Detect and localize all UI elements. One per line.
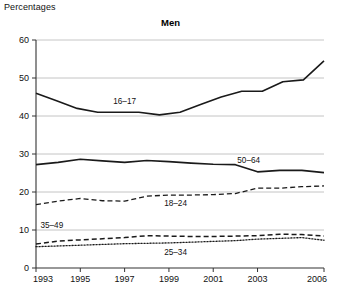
series-label-18-24: 18–24: [164, 199, 187, 208]
x-tick-label: 1995: [70, 274, 90, 284]
y-tick-label: 10: [19, 225, 29, 235]
chart-container: Percentages Men 0102030405060 1993199519…: [0, 0, 341, 292]
line-chart-plot: 0102030405060 19931995199719992001200320…: [0, 0, 341, 292]
series-line-16-17: [36, 61, 324, 115]
y-tick-label: 20: [19, 187, 29, 197]
x-tick-label: 1999: [159, 274, 179, 284]
x-tick-labels-group: 1993199519971999200120032006: [33, 274, 327, 284]
y-tick-label: 30: [19, 149, 29, 159]
x-tick-label: 1993: [33, 274, 53, 284]
x-tick-label: 2006: [307, 274, 327, 284]
y-tick-label: 0: [24, 263, 29, 273]
series-line-50-64: [36, 159, 324, 172]
y-tick-label: 40: [19, 111, 29, 121]
series-label-16-17: 16–17: [113, 97, 136, 106]
series-label-50-64: 50–64: [237, 156, 260, 165]
y-tick-label: 50: [19, 73, 29, 83]
x-tick-marks-group: [36, 268, 324, 272]
series-labels-group: 16–1718–2425–3435–4950–64: [40, 97, 260, 257]
y-tick-label: 60: [19, 35, 29, 45]
x-tick-label: 1997: [115, 274, 135, 284]
series-line-25-34: [36, 238, 324, 247]
series-label-35-49: 35–49: [40, 221, 63, 230]
x-tick-label: 2003: [248, 274, 268, 284]
y-tick-labels-group: 0102030405060: [19, 35, 29, 273]
x-tick-label: 2001: [203, 274, 223, 284]
series-label-25-34: 25–34: [164, 248, 187, 257]
y-tick-marks-group: [32, 40, 36, 268]
